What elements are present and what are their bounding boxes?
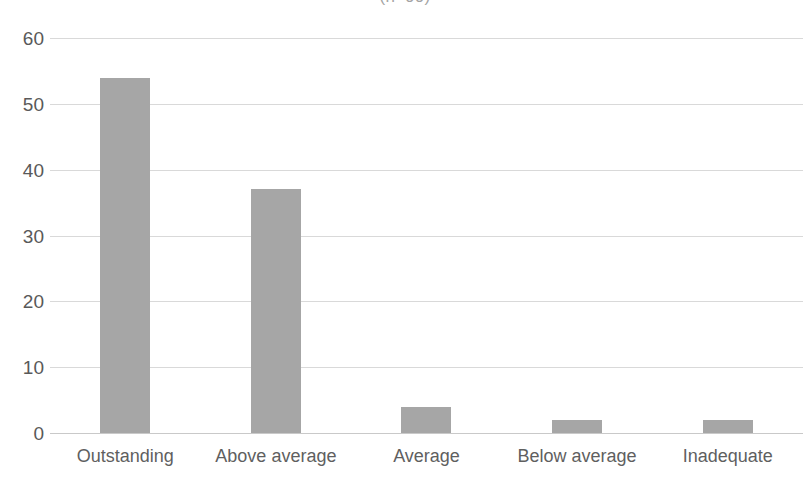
- y-axis-tick-label: 40: [4, 160, 44, 179]
- bar-slot: [502, 38, 653, 433]
- bars-layer: [50, 38, 803, 433]
- y-axis-tick-label: 0: [4, 424, 44, 443]
- bar-slot: [351, 38, 502, 433]
- x-axis-category-label: Average: [393, 442, 460, 470]
- bar: [100, 78, 150, 434]
- x-axis-category-label: Below average: [518, 442, 637, 470]
- bar-slot: [201, 38, 352, 433]
- bar: [552, 420, 602, 433]
- x-axis: OutstandingAbove averageAverageBelow ave…: [50, 442, 803, 472]
- bar-slot: [50, 38, 201, 433]
- bar: [251, 189, 301, 433]
- x-axis-category-label: Above average: [215, 442, 336, 470]
- bar-chart: (n=99) 0102030405060 OutstandingAbove av…: [0, 0, 810, 478]
- y-axis-tick-label: 30: [4, 226, 44, 245]
- x-axis-category-label: Outstanding: [77, 442, 174, 470]
- y-axis: 0102030405060: [0, 38, 44, 433]
- y-axis-tick-label: 10: [4, 358, 44, 377]
- bar-slot: [652, 38, 803, 433]
- x-axis-category-label: Inadequate: [683, 442, 773, 470]
- y-axis-tick-label: 20: [4, 292, 44, 311]
- bar: [703, 420, 753, 433]
- bar: [401, 407, 451, 433]
- y-axis-tick-label: 60: [4, 29, 44, 48]
- y-axis-tick-label: 50: [4, 94, 44, 113]
- chart-title: (n=99): [0, 0, 810, 7]
- axis-baseline: [50, 433, 803, 434]
